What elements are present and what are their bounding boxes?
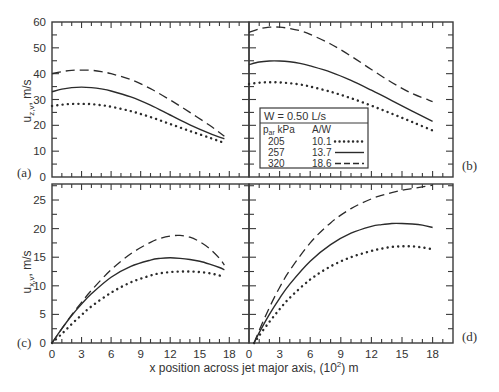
x-tick-label: 12 — [365, 348, 378, 360]
panel-label-d: (d) — [462, 329, 477, 344]
bottom-y-axis-label: ux,v, m/s — [20, 251, 36, 294]
curve-solid — [52, 258, 224, 343]
curve-solid — [52, 87, 224, 139]
x-tick-label: 18 — [426, 348, 439, 360]
x-tick-label: 0 — [246, 348, 252, 360]
y-tick-label: 0 — [40, 337, 46, 349]
curve-dashed — [254, 185, 433, 343]
y-tick-label: 5 — [40, 308, 46, 320]
x-tick-label: 3 — [78, 348, 84, 360]
legend-col2-header: A/W — [312, 124, 331, 135]
y-tick-label: 60 — [33, 16, 46, 28]
y-tick-label: 20 — [33, 223, 46, 235]
legend-pressure: 320 — [268, 158, 285, 169]
y-tick-label: 50 — [33, 42, 46, 54]
axis-ticks — [52, 22, 453, 343]
legend-aw: 18.6 — [312, 158, 332, 169]
legend-pressure: 257 — [268, 147, 285, 158]
tick-labels: 0102030405060051015202503691215180369121… — [33, 16, 439, 360]
curve-dashed — [249, 27, 433, 102]
x-tick-label: 9 — [338, 348, 344, 360]
x-tick-label: 15 — [396, 348, 409, 360]
y-tick-label: 10 — [33, 145, 46, 157]
legend: W = 0.50 L/s par kPa A/W 20510.125713.73… — [260, 108, 368, 169]
curve-dotted — [254, 246, 433, 343]
y-tick-label: 40 — [33, 68, 46, 80]
x-tick-label: 6 — [108, 348, 114, 360]
figure-canvas: 0102030405060051015202503691215180369121… — [0, 0, 499, 392]
x-axis-label: x position across jet major axis, (102) … — [149, 360, 358, 375]
panel-label-b: (b) — [462, 158, 477, 173]
panel-label-a: (a) — [17, 165, 31, 180]
panel-frame-0 — [52, 22, 249, 177]
top-y-axis-label: uz,v, m/s — [20, 80, 36, 123]
x-tick-label: 6 — [307, 348, 313, 360]
x-tick-label: 3 — [276, 348, 282, 360]
curve-dotted — [52, 104, 224, 143]
legend-title: W = 0.50 L/s — [264, 110, 327, 122]
legend-pressure: 205 — [268, 136, 285, 147]
x-tick-label: 0 — [49, 348, 55, 360]
y-tick-label: 0 — [40, 171, 46, 183]
legend-col1-header: par kPa — [263, 124, 295, 136]
x-tick-label: 15 — [193, 348, 206, 360]
y-tick-label: 15 — [33, 251, 46, 263]
data-curves — [52, 27, 433, 343]
legend-aw: 10.1 — [312, 136, 332, 147]
x-tick-label: 12 — [164, 348, 177, 360]
panel-frames — [52, 22, 453, 343]
x-tick-label: 18 — [223, 348, 236, 360]
panel-label-c: (c) — [17, 335, 31, 350]
panel-frame-2 — [52, 184, 249, 343]
y-tick-label: 25 — [33, 194, 46, 206]
curve-solid — [254, 223, 433, 343]
x-tick-label: 9 — [137, 348, 143, 360]
y-tick-label: 20 — [33, 119, 46, 131]
legend-aw: 13.7 — [312, 147, 332, 158]
curve-dashed — [52, 235, 224, 343]
y-tick-label: 30 — [33, 94, 46, 106]
